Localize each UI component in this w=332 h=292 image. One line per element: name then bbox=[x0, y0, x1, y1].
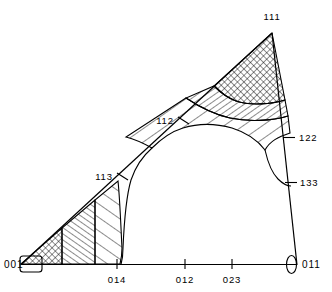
label-001: 001 bbox=[4, 259, 23, 270]
label-112: 112 bbox=[156, 115, 174, 126]
boundary-left-lobe bbox=[121, 148, 152, 265]
apex-crosshatch-field bbox=[214, 33, 285, 104]
label-014: 014 bbox=[108, 274, 127, 285]
label-133: 133 bbox=[300, 177, 319, 188]
axis-left-diagonal bbox=[21, 33, 272, 265]
label-023: 023 bbox=[223, 274, 242, 285]
label-122: 122 bbox=[299, 132, 318, 143]
corner-sparse-hatch-band bbox=[95, 181, 122, 264]
diagram-canvas: 001 011 111 112 113 122 133 014 012 023 bbox=[0, 0, 332, 292]
label-011: 011 bbox=[302, 259, 321, 270]
label-012: 012 bbox=[176, 274, 195, 285]
corner-dense-hatch-band bbox=[62, 200, 95, 264]
tick-113 bbox=[117, 173, 128, 180]
label-113: 113 bbox=[95, 171, 113, 182]
phase-diagram-figure: 001 011 111 112 113 122 133 014 012 023 bbox=[0, 0, 332, 292]
axis-right-edge bbox=[272, 33, 297, 265]
label-111: 111 bbox=[263, 11, 280, 22]
